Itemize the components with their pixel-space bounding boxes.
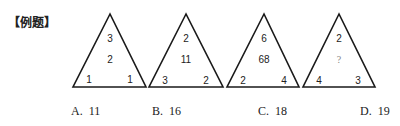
- option-a[interactable]: A.11: [71, 104, 100, 119]
- triangle-1-top: 3: [107, 33, 113, 44]
- triangle-4-unknown: ?: [337, 54, 342, 65]
- triangle-2-center: 11: [181, 54, 192, 65]
- triangle-3-center: 68: [258, 54, 270, 65]
- triangle-3: 6 68 2 4: [227, 14, 299, 87]
- option-c-letter: C.: [258, 104, 269, 118]
- option-a-letter: A.: [71, 104, 83, 118]
- triangle-1-center: 2: [107, 54, 113, 65]
- triangle-2-left: 3: [162, 75, 168, 86]
- option-d[interactable]: D.19: [360, 104, 390, 119]
- triangle-3-left: 2: [240, 75, 246, 86]
- triangle-4-right: 3: [355, 75, 361, 86]
- triangle-2-top: 2: [183, 33, 189, 44]
- triangle-1-left: 1: [86, 74, 92, 85]
- triangle-1: 3 2 1 1: [73, 14, 146, 87]
- option-a-value: 11: [89, 104, 101, 118]
- triangle-2: 2 11 3 2: [149, 14, 223, 87]
- option-b-letter: B.: [152, 104, 163, 118]
- option-d-value: 19: [378, 104, 390, 118]
- triangle-3-top: 6: [261, 33, 267, 44]
- triangle-figures: 3 2 1 1 2 11 3 2 6 68 2 4 2 ? 4 3: [0, 0, 400, 126]
- option-b[interactable]: B.16: [152, 104, 181, 119]
- option-c-value: 18: [275, 104, 287, 118]
- option-d-letter: D.: [360, 104, 372, 118]
- triangle-4: 2 ? 4 3: [303, 14, 375, 87]
- triangle-1-right: 1: [127, 74, 133, 85]
- triangle-2-right: 2: [203, 75, 209, 86]
- triangle-4-left: 4: [316, 75, 322, 86]
- triangle-3-right: 4: [281, 75, 287, 86]
- option-c[interactable]: C.18: [258, 104, 287, 119]
- triangle-4-top: 2: [336, 33, 342, 44]
- option-b-value: 16: [169, 104, 181, 118]
